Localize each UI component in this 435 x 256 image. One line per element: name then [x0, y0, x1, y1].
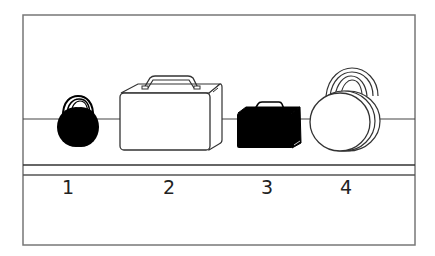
label-bag-1: 1 [62, 178, 74, 197]
bag-3-small-suitcase-black [237, 102, 301, 148]
bag-4-large-round-white [310, 68, 380, 151]
diagram-svg [0, 0, 435, 256]
bag-1-small-round-black [57, 96, 99, 147]
label-bag-4: 4 [340, 178, 352, 197]
label-bag-3: 3 [261, 178, 273, 197]
bag-2-large-suitcase-white [120, 76, 222, 150]
diagram-canvas: 1 2 3 4 [0, 0, 435, 256]
label-bag-2: 2 [163, 178, 175, 197]
